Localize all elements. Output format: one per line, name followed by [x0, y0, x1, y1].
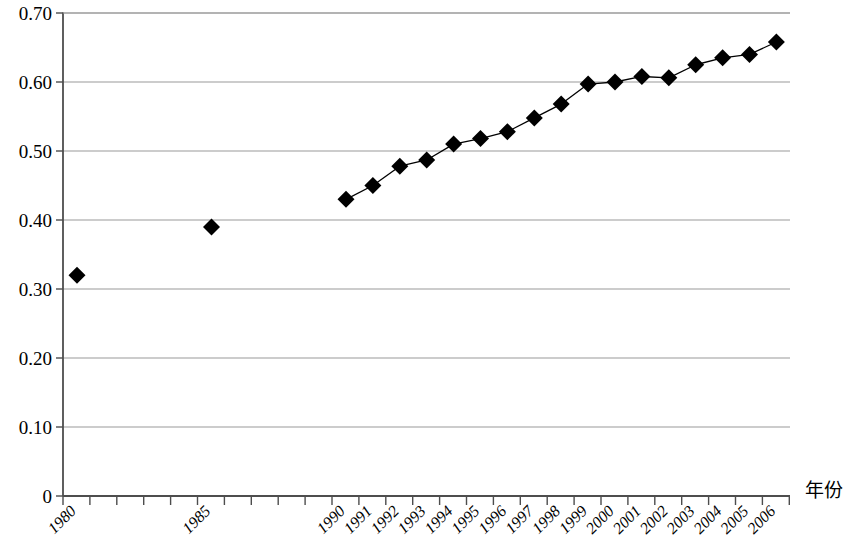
data-point-marker: [69, 267, 86, 284]
y-axis-tick-label: 0.60: [19, 72, 52, 93]
x-axis-tick-label: 1985: [179, 502, 214, 537]
data-point-marker: [687, 56, 704, 73]
y-axis-tick-label: 0.10: [19, 417, 52, 438]
y-axis-ticks-group: [56, 13, 63, 496]
data-point-marker: [660, 69, 677, 86]
x-axis-title: 年份: [805, 480, 843, 501]
data-point-marker: [338, 191, 355, 208]
x-axis-tick-label: 2005: [717, 502, 752, 537]
x-axis-tick-label: 1999: [556, 502, 591, 537]
y-axis-tick-label: 0.20: [19, 348, 52, 369]
y-axis-tick-label: 0.70: [19, 3, 52, 24]
data-point-marker: [418, 151, 435, 168]
y-axis-tick-label: 0.50: [19, 141, 52, 162]
data-point-marker: [445, 136, 462, 153]
gridlines-group: [63, 13, 790, 496]
data-point-marker: [607, 74, 624, 91]
x-axis-tick-label: 1997: [502, 501, 537, 536]
series-marker-group: [69, 33, 785, 283]
data-point-marker: [364, 177, 381, 194]
x-axis-tick-label: 1995: [448, 502, 483, 537]
scatter-line-chart: 0.700.600.500.400.300.200.100 1980198519…: [0, 0, 845, 552]
x-axis-tick-label: 1980: [44, 502, 79, 537]
y-axis-tick-label: 0.30: [19, 279, 52, 300]
y-axis-tick-label: 0.40: [19, 210, 52, 231]
x-axis-tick-label: 1998: [529, 502, 564, 537]
data-point-marker: [499, 123, 516, 140]
x-axis-tick-label: 1993: [394, 502, 429, 537]
x-axis-tick-label: 1992: [367, 502, 402, 537]
data-point-marker: [203, 218, 220, 235]
data-point-marker: [472, 130, 489, 147]
x-axis-tick-label: 1991: [340, 502, 375, 537]
series-line-group: [346, 42, 776, 199]
x-axis-tick-label: 1996: [475, 502, 510, 537]
data-point-marker: [526, 109, 543, 126]
x-axis-ticks-group: [63, 496, 789, 505]
y-axis-labels-group: 0.700.600.500.400.300.200.100: [19, 3, 52, 507]
x-axis-tick-label: 1990: [313, 502, 348, 537]
chart-container: 0.700.600.500.400.300.200.100 1980198519…: [0, 0, 845, 552]
x-axis-tick-label: 2000: [582, 502, 617, 537]
data-point-marker: [553, 96, 570, 113]
y-axis-tick-label: 0: [43, 486, 53, 507]
x-axis-tick-label: 2006: [744, 502, 779, 537]
x-axis-tick-label: 2002: [636, 502, 671, 537]
x-axis-tick-label: 2004: [690, 502, 725, 537]
x-axis-tick-label: 2001: [609, 502, 644, 537]
x-axis-tick-label: 2003: [663, 502, 698, 537]
x-axis-tick-label: 1994: [421, 502, 456, 537]
data-point-marker: [580, 76, 597, 93]
axis-lines-group: [63, 13, 790, 497]
x-axis-labels-group: 1980198519901991199219931994199519961997…: [44, 501, 778, 536]
data-point-marker: [714, 49, 731, 66]
data-point-marker: [391, 158, 408, 175]
data-point-marker: [741, 46, 758, 63]
data-point-marker: [768, 33, 785, 50]
